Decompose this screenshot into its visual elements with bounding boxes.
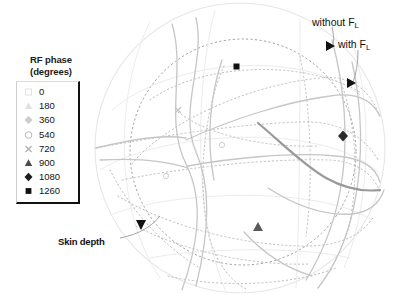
legend-box: 0 180 360 [16, 81, 80, 204]
triangle-up-filled-icon [21, 156, 36, 170]
legend-item-1260[interactable]: 1260 [17, 184, 78, 198]
legend: RF phase (degrees) 0 180 [14, 54, 88, 204]
trajectory-solid-6 [188, 155, 380, 182]
trajectory-dotted-9 [300, 56, 310, 236]
legend-label-720: 720 [39, 142, 55, 156]
annotation-without-fl-text: without F [312, 16, 355, 28]
annotation-without-fl-subscript: L [355, 21, 359, 30]
marker-triangle-up-900 [253, 222, 263, 231]
legend-item-360[interactable]: 360 [17, 113, 78, 127]
marker-diamond-1080 [338, 131, 348, 142]
marker-square-filled-1260 [234, 64, 240, 70]
annotation-skin-depth: Skin depth [58, 236, 105, 248]
legend-label-360: 360 [39, 113, 55, 127]
square-filled-icon [21, 184, 36, 198]
trajectory-primary-dark [258, 123, 380, 191]
legend-item-0[interactable]: 0 [17, 85, 78, 99]
annotation-with-fl-subscript: L [366, 43, 370, 52]
marker-circle-540-b [163, 173, 168, 178]
annotation-leader-lines [120, 27, 358, 238]
circle-open-icon [21, 128, 36, 142]
trajectory-dotted-2 [132, 77, 380, 164]
marker-triangle-down-phase [136, 220, 146, 230]
legend-item-540[interactable]: 540 [17, 128, 78, 142]
trajectory-dotted-6 [136, 226, 310, 264]
trajectory-solid-9 [268, 188, 384, 214]
legend-item-180[interactable]: 180 [17, 99, 78, 113]
diamond-filled-icon [21, 170, 36, 184]
trajectory-dotted-3 [96, 122, 378, 160]
legend-title-line1: RF phase [14, 54, 88, 66]
legend-item-720[interactable]: 720 [17, 142, 78, 156]
legend-label-0: 0 [39, 85, 44, 99]
annotation-without-fl: without FL [312, 16, 359, 30]
legend-item-1080[interactable]: 1080 [17, 170, 78, 184]
trajectory-solid-10 [244, 232, 312, 276]
legend-title-line2: (degrees) [14, 66, 88, 78]
diamond-icon [21, 113, 36, 127]
legend-item-900[interactable]: 900 [17, 156, 78, 170]
trajectory-dotted-11 [110, 170, 200, 268]
trajectory-solid-group [96, 18, 384, 290]
annotation-with-fl-text: with F [338, 38, 366, 50]
trajectory-solid-1 [172, 24, 197, 290]
annotation-with-fl: with FL [338, 38, 370, 52]
trajectory-dotted-5 [118, 196, 374, 246]
legend-label-180: 180 [39, 99, 55, 113]
trajectory-solid-2 [190, 18, 207, 286]
trajectory-solid-3 [96, 137, 186, 148]
legend-label-1260: 1260 [39, 184, 60, 198]
legend-label-540: 540 [39, 128, 55, 142]
skin-depth-circle [130, 39, 356, 265]
legend-label-900: 900 [39, 156, 55, 170]
triangle-up-icon [21, 99, 36, 113]
marker-triangle-right-with-fl [347, 78, 356, 88]
trajectory-dotted-12 [178, 112, 318, 146]
figure-canvas: RF phase (degrees) 0 180 [0, 0, 411, 303]
trajectory-dotted-1 [150, 69, 360, 100]
square-open-icon [21, 85, 36, 99]
legend-label-1080: 1080 [39, 170, 60, 184]
legend-title: RF phase (degrees) [14, 54, 88, 78]
marker-circle-540-a [219, 142, 224, 147]
trajectory-solid-4 [100, 159, 188, 168]
sphere-grid-arcs [100, 10, 378, 292]
cross-x-icon [21, 142, 36, 156]
